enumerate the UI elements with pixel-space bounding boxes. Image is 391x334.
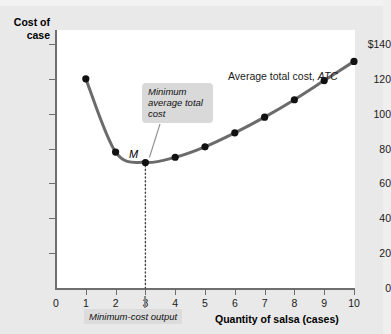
data-point	[291, 96, 298, 103]
minimum-point-label: M	[129, 148, 138, 160]
data-point	[172, 154, 179, 161]
series-legend-label: Average total cost, ATC	[228, 70, 338, 82]
data-point	[350, 58, 357, 65]
data-point	[142, 159, 149, 166]
series-legend-text: Average total cost,	[228, 70, 318, 82]
data-point	[201, 143, 208, 150]
series-legend-symbol: ATC	[318, 70, 338, 82]
callout-minimum-average-total-cost: Minimum average total cost	[142, 83, 213, 123]
data-point	[261, 114, 268, 121]
minimum-cost-output-label: Minimum-cost output	[84, 309, 182, 324]
data-point	[82, 75, 89, 82]
data-series-layer	[0, 0, 391, 334]
callout-leader-line	[149, 124, 160, 157]
data-point	[231, 129, 238, 136]
minimum-output-pointer	[144, 296, 146, 308]
figure-container: Cost of case Quantity of salsa (cases) 0…	[0, 0, 391, 334]
data-point	[112, 148, 119, 155]
